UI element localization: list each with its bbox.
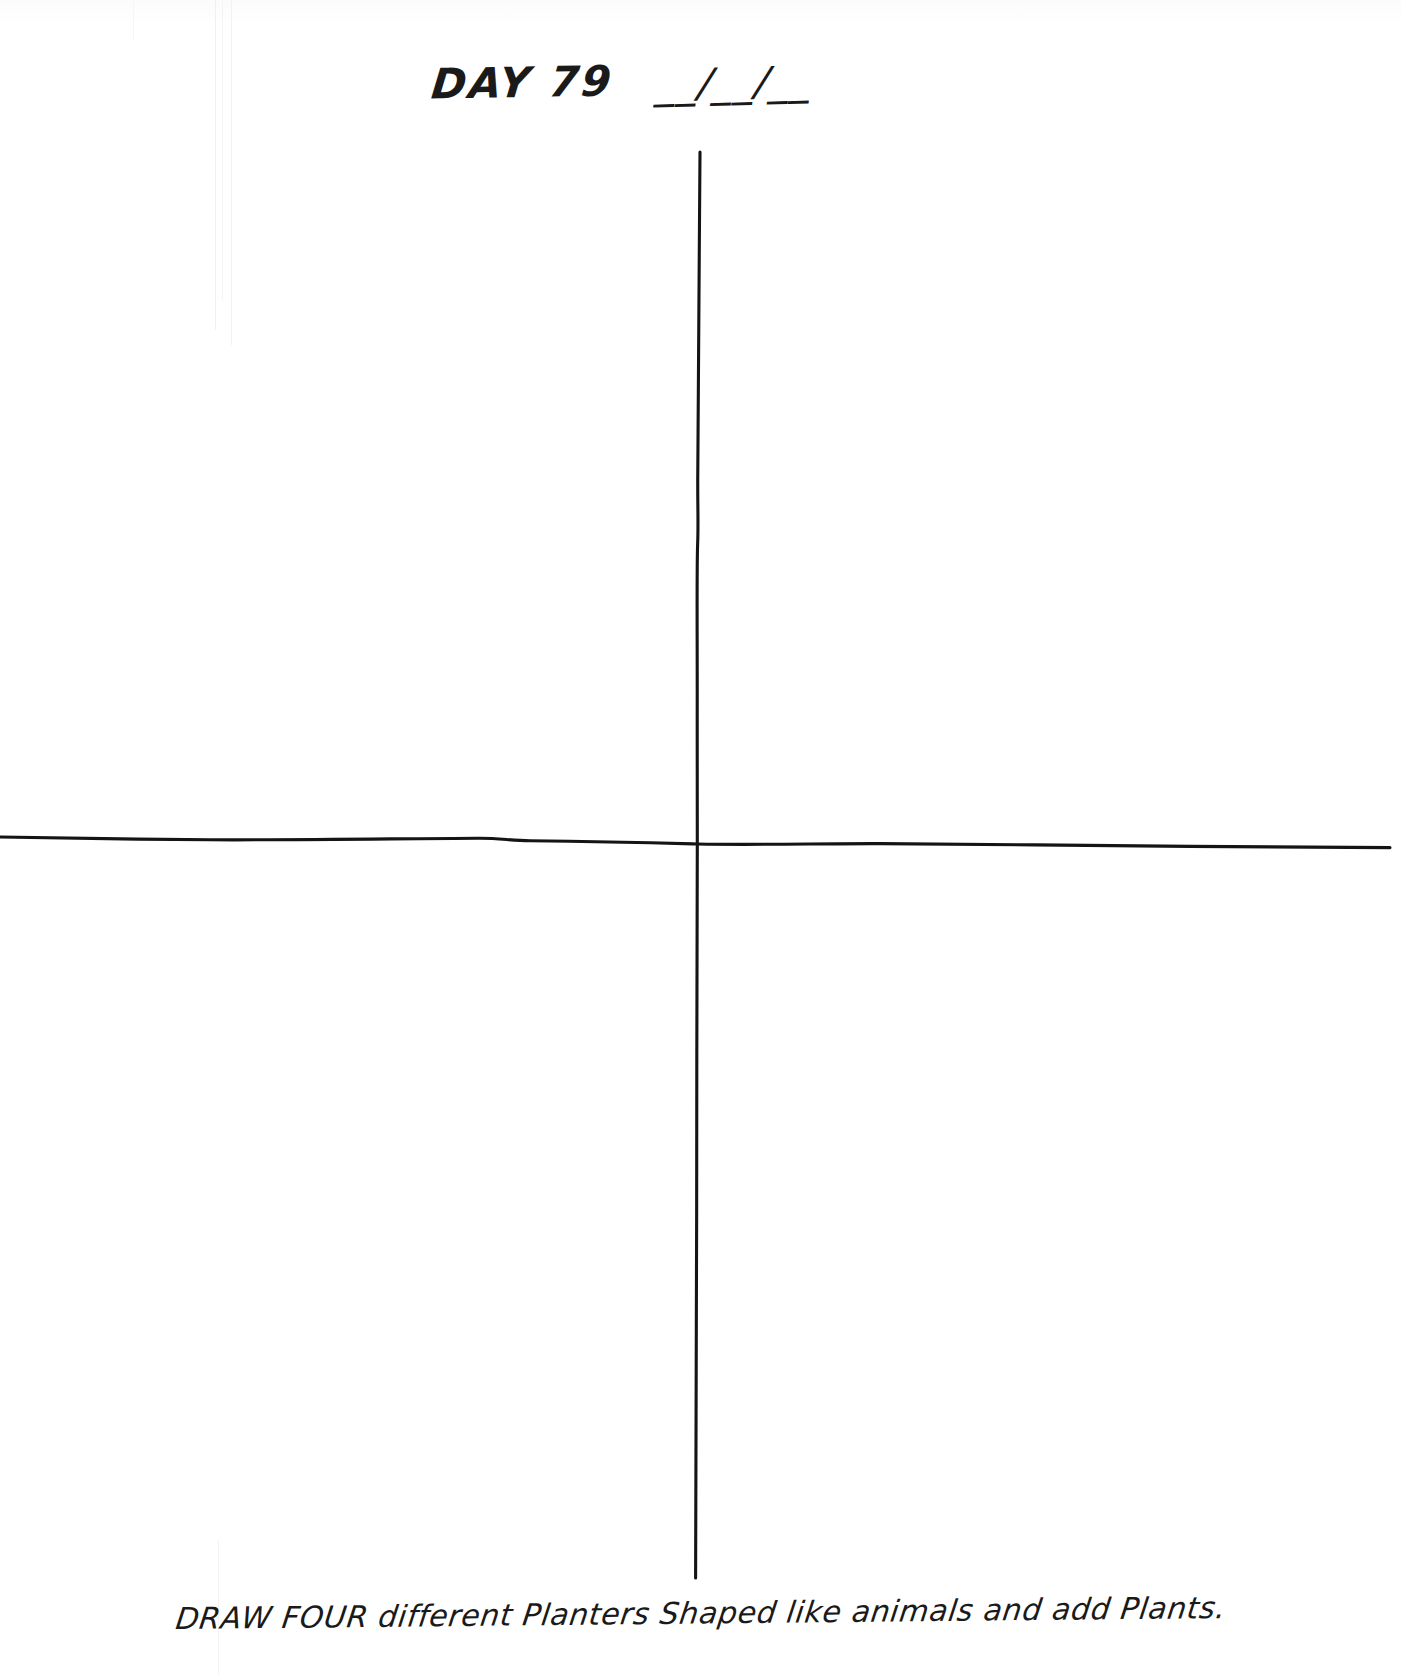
drawing-area-top-right[interactable] xyxy=(700,152,1401,842)
drawing-area-bottom-right[interactable] xyxy=(700,846,1401,1578)
drawing-area-bottom-left[interactable] xyxy=(0,846,696,1578)
worksheet-header: DAY 79 __/__/__ xyxy=(432,62,812,104)
date-blank-field[interactable]: __/__/__ xyxy=(654,60,815,104)
day-number-label: DAY 79 xyxy=(430,60,616,105)
drawing-area-top-left[interactable] xyxy=(0,152,696,842)
worksheet-page: DAY 79 __/__/__ DRAW FOUR different Plan… xyxy=(0,0,1401,1675)
prompt-caption: DRAW FOUR different Planters Shaped like… xyxy=(174,1591,1228,1635)
scan-artifact-streak xyxy=(133,0,134,40)
scan-artifact-top-wash xyxy=(0,0,1401,26)
